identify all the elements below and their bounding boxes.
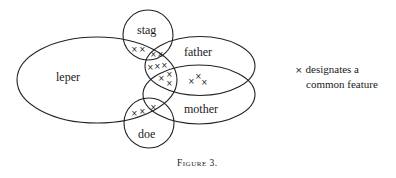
svg-text:×: × [150,50,157,59]
father-label: father [184,45,212,59]
svg-text:×: × [166,70,173,79]
legend-line-1: ×designates a [295,62,378,77]
svg-text:×: × [139,107,146,116]
svg-text:×: × [158,74,165,83]
svg-text:×: × [131,109,138,118]
leper-label: leper [56,70,80,84]
stag-label: stag [137,23,156,37]
svg-text:×: × [161,61,168,70]
marks-father-mother: × × × [188,72,208,87]
doe-label: doe [138,127,155,141]
legend: ×designates a common feature [295,62,378,91]
marks-leper-stag: × × [131,45,146,54]
mother-label: mother [184,102,218,116]
svg-text:×: × [131,45,138,54]
marks-leper-stag-father: × × [150,50,164,59]
legend-text-1: designates a [306,63,359,75]
svg-text:×: × [157,50,164,59]
legend-text-2: common feature [295,77,378,91]
cross-marker-icon: × [295,65,303,75]
svg-text:×: × [166,79,173,88]
svg-text:×: × [150,103,157,112]
svg-text:×: × [139,45,146,54]
svg-text:×: × [147,63,154,72]
marks-leper-doe-mother: × [150,103,157,112]
marks-leper-father: × × × [147,61,168,72]
svg-text:×: × [188,77,195,86]
svg-text:×: × [154,62,161,71]
svg-text:×: × [201,78,208,87]
figure-caption: Figure 3. [177,158,218,168]
